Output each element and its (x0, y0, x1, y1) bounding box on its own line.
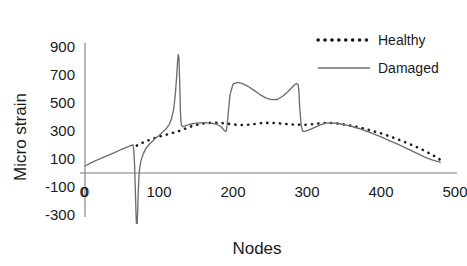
y-tick-label: 500 (50, 94, 75, 111)
x-tick-label: 300 (294, 183, 319, 200)
legend-label-healthy: Healthy (378, 32, 425, 48)
x-tick-label: 500 (442, 183, 467, 200)
y-tick-label: 900 (50, 38, 75, 55)
x-tick-label: 200 (220, 183, 245, 200)
legend: HealthyDamaged (318, 32, 439, 76)
y-tick-label: -100 (45, 178, 75, 195)
y-tick-label: 100 (50, 150, 75, 167)
y-axis-title: Micro strain (11, 93, 30, 181)
y-tick-label: -300 (45, 206, 75, 223)
series-line-damaged (85, 55, 440, 232)
origin-label: 0 (80, 183, 88, 200)
y-tick-label: 700 (50, 66, 75, 83)
legend-label-damaged: Damaged (378, 60, 439, 76)
micro-strain-chart: -300-1001003005007009000100200300400500M… (0, 0, 467, 266)
y-tick-labels: -300-100100300500700900 (45, 38, 75, 223)
plot-area (85, 55, 440, 232)
x-tick-label: 400 (368, 183, 393, 200)
x-axis-title: Nodes (232, 239, 281, 258)
series-line-healthy (137, 123, 440, 160)
x-tick-label: 100 (146, 183, 171, 200)
y-tick-label: 300 (50, 122, 75, 139)
